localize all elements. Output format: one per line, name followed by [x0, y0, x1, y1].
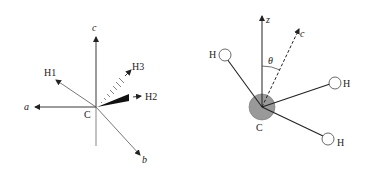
hydrogen-label-upper-left: H: [209, 49, 216, 60]
bond-h-upper-left: [227, 59, 262, 107]
right-diagram: z c θ H H H C: [209, 14, 350, 148]
c-axis-label-right: c: [300, 28, 305, 39]
hydrogen-atom-upper-left: [219, 49, 231, 61]
a-axis-label: a: [24, 101, 29, 112]
b-axis-label: b: [142, 154, 147, 165]
h3-label: H3: [132, 61, 144, 72]
carbon-label-right: C: [256, 122, 263, 133]
h2-label: H2: [145, 91, 157, 102]
h1-label: H1: [44, 67, 56, 78]
c-axis-label: c: [92, 22, 97, 33]
h1-bond: [56, 80, 96, 107]
h2-arrow: [133, 96, 141, 97]
b-axis: [96, 107, 140, 155]
carbon-label: C: [84, 109, 91, 120]
h3-arrow: [125, 70, 131, 76]
hydrogen-label-lower-right: H: [337, 137, 344, 148]
h2-solid-wedge: [97, 94, 129, 107]
hydrogen-atom-right: [329, 77, 341, 89]
theta-arc: [262, 66, 280, 70]
z-axis-label: z: [265, 14, 270, 25]
bond-h-right: [262, 84, 330, 107]
c-axis-dashed: [262, 29, 299, 107]
theta-label: θ: [268, 55, 273, 66]
figure-canvas: c a b H1 H2 H3 C z c θ H H H C: [0, 0, 366, 175]
hydrogen-atom-lower-right: [322, 133, 334, 145]
left-diagram: c a b H1 H2 H3 C: [24, 22, 157, 165]
hydrogen-label-right: H: [343, 78, 350, 89]
bond-h-lower-right: [262, 107, 323, 136]
